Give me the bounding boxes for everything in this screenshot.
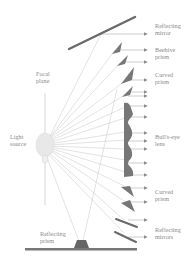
label-bulls-eye-lens: Bull's-eye lens	[155, 133, 180, 148]
beehive-prism-2	[117, 55, 128, 66]
reflecting-mirror-top	[69, 17, 135, 49]
base-platform	[25, 248, 137, 251]
label-reflecting-prism: Reflecting prism	[40, 230, 66, 245]
light-source-base	[42, 155, 48, 163]
lighthouse-optics-diagram	[0, 0, 196, 262]
label-beehive-prism: Beehive prism	[155, 46, 175, 61]
label-curved-prism-top: Curved prism	[155, 71, 173, 86]
label-reflecting-mirror: Reflecting mirror	[155, 22, 181, 37]
curved-prism-top-2	[122, 86, 133, 97]
curved-prism-bottom-1	[121, 186, 134, 197]
light-rays	[46, 34, 126, 241]
bulls-eye-lens	[124, 103, 133, 177]
reflecting-prism	[74, 240, 89, 248]
label-reflecting-mirrors: Reflecting mirrors	[155, 226, 181, 241]
label-curved-prism-bottom: Curved prism	[155, 188, 173, 203]
label-focal-plane: Focal plane	[36, 70, 50, 85]
beehive-prism-1	[112, 42, 122, 54]
light-source-bulb	[36, 133, 54, 157]
label-light-source: Light source	[10, 133, 26, 148]
curved-prism-top-1	[121, 67, 134, 84]
